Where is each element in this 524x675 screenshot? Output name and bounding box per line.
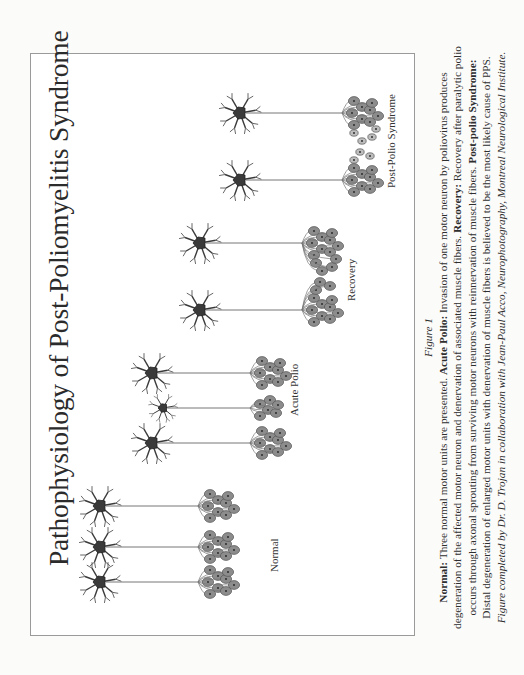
figure-caption: Figure 1 Normal: Three normal motor unit… [421, 0, 509, 675]
group-label-recovery: Recovery [345, 259, 357, 301]
neuron-normal-2 [79, 527, 240, 568]
caption-text: Recovery after paralytic polio [451, 46, 463, 184]
caption-term-post-polio: Post-polio Syndrome: [466, 59, 478, 163]
neuron-acute-polio-1 [131, 423, 292, 464]
figure-number: Figure 1 [421, 0, 436, 675]
caption-term-acute-polio: Acute Polio: [437, 316, 449, 375]
neuron-pps-1 [219, 149, 384, 201]
caption-term-normal: Normal: [437, 562, 449, 603]
caption-text: degeneration of the affected motor neuro… [451, 233, 463, 629]
caption-text: Invasion of one motor neuron by poliovir… [437, 72, 449, 315]
caption-line-1: Normal: Three normal motor units are pre… [436, 0, 451, 675]
caption-line-4: Distal degeneration of enlarged motor un… [479, 0, 494, 675]
neuron-recovery-2 [179, 223, 344, 275]
caption-text: occurs through axonal sprouting from sur… [466, 164, 478, 616]
neuron-normal-1 [79, 562, 240, 603]
neuron-pps-2 [219, 93, 384, 144]
neuron-recovery-1 [179, 278, 344, 331]
motor-unit-diagram [0, 0, 420, 675]
caption-text: Three normal motor units are presented. [437, 375, 449, 562]
group-label-post-polio-syndrome: Post-Polio Syndrome [385, 94, 397, 188]
neuron-normal-3 [79, 486, 240, 527]
caption-text: Distal degeneration of enlarged motor un… [480, 56, 492, 618]
caption-line-3: occurs through axonal sprouting from sur… [465, 0, 480, 675]
group-label-acute-polio: Acute Polio [288, 364, 300, 416]
caption-line-2: degeneration of the affected motor neuro… [450, 0, 465, 675]
rotated-page: Pathophysiology of Post-Poliomyelitis Sy… [0, 0, 524, 675]
group-label-normal: Normal [268, 538, 280, 572]
neuron-acute-polio-3 [131, 353, 292, 394]
caption-term-recovery: Recovery: [451, 184, 463, 233]
caption-credit: Figure completed by Dr. D. Trojan in col… [494, 0, 509, 675]
neuron-acute-polio-infected [148, 394, 283, 423]
